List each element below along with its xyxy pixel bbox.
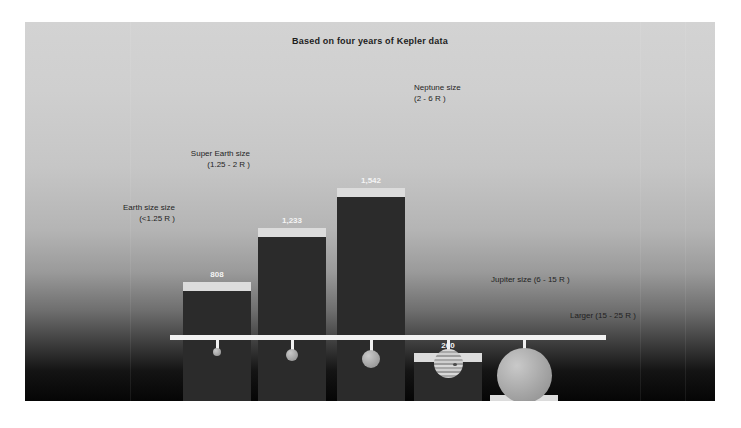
bar-label-jupiter-size: Jupiter size (6 - 15 R ) — [491, 274, 661, 285]
label-line-1: Super Earth size — [120, 148, 250, 159]
bar-neptune-size: 1,542 — [337, 188, 405, 401]
chart-figure: Based on four years of Kepler data 808 1… — [0, 0, 741, 428]
planet-neptune-icon — [362, 350, 380, 368]
bar-label-earth-size: Earth size size (<1.25 R ) — [45, 202, 175, 224]
planet-earth-icon — [213, 348, 221, 356]
label-line-2: (<1.25 R ) — [45, 213, 175, 224]
bar-cap — [337, 188, 405, 197]
bar-label-neptune-size: Neptune size (2 - 6 R ) — [414, 82, 564, 104]
label-line-2: (1.25 - 2 R ) — [120, 159, 250, 170]
bar-body — [258, 237, 326, 401]
plot-area: Based on four years of Kepler data 808 1… — [25, 22, 715, 401]
bar-value-label: 808 — [183, 270, 251, 279]
background-seam — [640, 22, 641, 401]
baseline-axis — [170, 335, 606, 340]
chart-title: Based on four years of Kepler data — [25, 36, 715, 46]
label-line-2: (2 - 6 R ) — [414, 93, 564, 104]
bar-label-larger-size: Larger (15 - 25 R ) — [570, 310, 715, 321]
bar-label-super-earth-size: Super Earth size (1.25 - 2 R ) — [120, 148, 250, 170]
label-line-1: Larger (15 - 25 R ) — [570, 310, 715, 321]
label-line-1: Earth size size — [45, 202, 175, 213]
bar-value-label: 1,233 — [258, 216, 326, 225]
bar-cap — [258, 228, 326, 237]
bar-cap — [183, 282, 251, 291]
label-line-1: Jupiter size (6 - 15 R ) — [491, 274, 661, 285]
background-seam — [685, 22, 686, 401]
label-line-1: Neptune size — [414, 82, 564, 93]
great-red-spot-icon — [453, 363, 457, 366]
bar-value-label: 1,542 — [337, 176, 405, 185]
planet-jupiter-icon — [434, 349, 463, 378]
bar-super-earth-size: 1,233 — [258, 228, 326, 401]
bar-body — [337, 197, 405, 401]
planet-super-earth-icon — [286, 349, 298, 361]
planet-larger-icon — [497, 348, 552, 401]
